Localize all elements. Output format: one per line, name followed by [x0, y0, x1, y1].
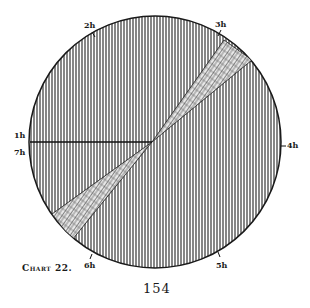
hour-label-3h: 3h: [215, 20, 226, 28]
hour-label-7h: 7h: [14, 148, 25, 156]
hour-label-4h: 4h: [287, 141, 298, 149]
tick-6h: [90, 254, 92, 259]
tick-5h: [218, 252, 220, 257]
page-number: 154: [143, 281, 171, 296]
circular-diagram: [0, 0, 310, 308]
figure-caption: Chart 22.: [22, 263, 72, 273]
hour-label-5h: 5h: [216, 261, 227, 269]
hour-label-1h: 1h: [14, 131, 25, 139]
hour-label-6h: 6h: [84, 261, 95, 269]
hour-label-2h: 2h: [84, 21, 95, 29]
